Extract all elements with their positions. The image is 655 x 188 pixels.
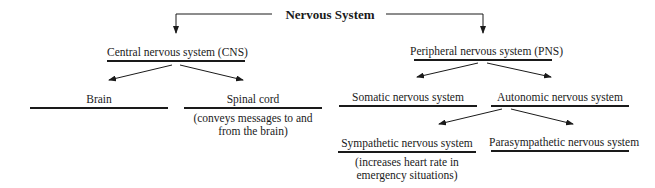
arrow-to-brain [109, 65, 172, 80]
node-brain: Brain [30, 93, 168, 106]
node-spinal-cord: Spinal cord [184, 93, 322, 106]
arrow-to-parasympathetic [511, 109, 573, 124]
node-cns: Central nervous system (CNS) [107, 46, 245, 59]
node-somatic: Somatic nervous system [339, 91, 477, 104]
arrow-to-somatic [417, 63, 478, 77]
node-sympathetic: Sympathetic nervous system [338, 137, 476, 150]
arrow-to-cns [176, 14, 272, 33]
arrow-to-sympathetic [439, 109, 502, 124]
sympathetic-note-line-1: (increases heart rate in [334, 156, 480, 169]
spinal-note-line-2: from the brain) [180, 125, 326, 138]
sympathetic-note: (increases heart rate in emergency situa… [334, 156, 480, 182]
spinal-note-line-1: (conveys messages to and [180, 112, 326, 125]
node-parasympathetic: Parasympathetic nervous system [489, 136, 631, 149]
arrow-to-pns [386, 14, 483, 33]
arrow-to-autonomic [487, 63, 551, 77]
arrow-to-spinal [180, 65, 243, 80]
node-autonomic: Autonomic nervous system [491, 91, 629, 104]
root-node-title: Nervous System [275, 8, 385, 21]
spinal-cord-note: (conveys messages to and from the brain) [180, 112, 326, 138]
node-pns: Peripheral nervous system (PNS) [410, 45, 556, 58]
sympathetic-note-line-2: emergency situations) [334, 169, 480, 182]
